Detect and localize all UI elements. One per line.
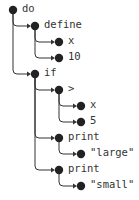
arrowhead-icon [51, 136, 55, 141]
tree-node-label: > [68, 82, 74, 94]
arrowhead-icon [27, 72, 31, 77]
arrowhead-icon [51, 168, 55, 173]
arrowhead-icon [51, 40, 55, 45]
arrowhead-icon [73, 104, 77, 109]
tree-node-dot [31, 22, 39, 30]
tree-node-dot [77, 150, 85, 158]
arrowhead-icon [73, 152, 77, 157]
tree-node-dot [55, 134, 63, 142]
arrowhead-icon [73, 120, 77, 125]
tree-node-label: x [90, 98, 96, 110]
tree-edge [35, 74, 53, 170]
arrowhead-icon [51, 56, 55, 61]
tree-node-label: if [44, 66, 57, 78]
tree-node-label: do [22, 2, 35, 14]
tree-node-dot [55, 54, 63, 62]
tree-node-label: 10 [68, 50, 81, 62]
arrowhead-icon [73, 184, 77, 189]
tree-node-dot [9, 6, 17, 14]
tree-node-label: x [68, 34, 74, 46]
arrowhead-icon [51, 88, 55, 93]
tree-node-label: print [68, 130, 100, 142]
tree-node-dot [55, 38, 63, 46]
tree-node-dot [55, 166, 63, 174]
tree-edge [35, 74, 53, 138]
tree-node-dot [77, 102, 85, 110]
tree-node-dot [77, 118, 85, 126]
tree-node-dot [55, 86, 63, 94]
tree-node-label: "large" [90, 146, 134, 158]
arrowhead-icon [27, 24, 31, 29]
tree-node-label: define [44, 18, 82, 30]
tree-node-dot [31, 70, 39, 78]
tree-node-label: print [68, 162, 100, 174]
tree-node-label: "small" [90, 178, 134, 190]
tree-node-label: 5 [90, 114, 96, 126]
tree-edge [13, 10, 29, 74]
tree-node-dot [77, 182, 85, 190]
